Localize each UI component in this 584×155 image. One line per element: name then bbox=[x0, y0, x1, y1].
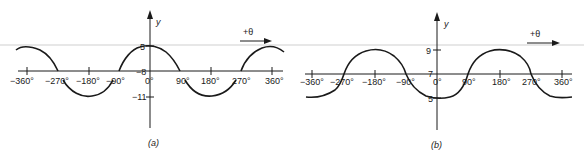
tick-label: −180° bbox=[76, 76, 100, 86]
y-tick-label: −8 bbox=[136, 67, 146, 77]
tick-label: 360° bbox=[265, 76, 284, 86]
diagram-canvas: −360° −270° −180° −90° 0° 90° 180° 270° … bbox=[0, 0, 584, 155]
tick-label: −360° bbox=[300, 77, 324, 87]
y-axis-label: y bbox=[443, 19, 449, 29]
y-tick-label: 9 bbox=[426, 46, 431, 56]
direction-label: +θ bbox=[530, 29, 540, 39]
tick-label: 90° bbox=[462, 77, 476, 87]
x-tick-labels-a: −360° −270° −180° −90° 0° 90° 180° 270° … bbox=[10, 76, 284, 86]
tick-label: 360° bbox=[554, 77, 573, 87]
y-tick-label: 5 bbox=[140, 42, 145, 52]
tick-label: 180° bbox=[492, 77, 511, 87]
tick-label: 270° bbox=[522, 77, 541, 87]
y-tick-label: 7 bbox=[428, 69, 433, 79]
y-axis-label: y bbox=[155, 17, 161, 27]
tick-label: −90° bbox=[106, 76, 125, 86]
panel-b: −360° −270° −180° −90° 0° 90° 180° 270° … bbox=[300, 12, 573, 150]
y-axis-arrow-icon bbox=[434, 12, 440, 21]
tick-label: 90° bbox=[176, 76, 190, 86]
tick-label: 0° bbox=[433, 77, 442, 87]
y-tick-label: 5 bbox=[428, 94, 433, 104]
tick-label: −270° bbox=[330, 77, 354, 87]
caption-a: (a) bbox=[148, 138, 159, 148]
tick-label: 180° bbox=[201, 76, 220, 86]
direction-arrow-icon bbox=[264, 38, 272, 44]
x-tick-labels-b: −360° −270° −180° −90° 0° 90° 180° 270° … bbox=[300, 77, 573, 87]
tick-label: −360° bbox=[10, 76, 34, 86]
tick-label: 0° bbox=[145, 76, 154, 86]
tick-label: 270° bbox=[232, 76, 251, 86]
panel-a: −360° −270° −180° −90° 0° 90° 180° 270° … bbox=[10, 10, 284, 148]
y-axis-arrow-icon bbox=[147, 10, 153, 19]
y-tick-label: −11 bbox=[132, 92, 147, 102]
tick-label: −90° bbox=[396, 77, 415, 87]
caption-b: (b) bbox=[431, 140, 442, 150]
tick-label: −180° bbox=[362, 77, 386, 87]
direction-label: +θ bbox=[243, 27, 253, 37]
tick-label: −270° bbox=[45, 76, 69, 86]
